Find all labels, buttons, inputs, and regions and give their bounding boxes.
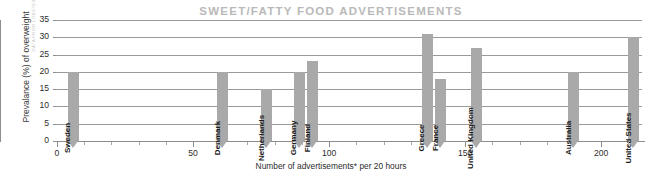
plot-area: SwedenDenmarkNetherlandsGermanyFinlandGr… — [57, 20, 642, 141]
x-tick-minor — [628, 142, 629, 145]
y-tick-label: 35 — [9, 14, 49, 24]
x-tick-label: 50 — [173, 148, 213, 158]
x-tick-minor — [574, 142, 575, 145]
y-tick-label: 10 — [9, 100, 49, 110]
x-tick-label: 0 — [37, 148, 77, 158]
x-tick-minor — [411, 142, 412, 145]
gridline — [57, 20, 642, 21]
x-tick-minor — [520, 142, 521, 145]
gridline — [57, 72, 642, 73]
x-tick-minor — [302, 142, 303, 145]
x-tick-minor — [84, 142, 85, 145]
y-tick-label: 20 — [9, 66, 49, 76]
chart-figure: DATA FROM LOBSTEIN AND DIBB, 2005 SWEET/… — [0, 0, 662, 177]
y-tick-label: 15 — [9, 83, 49, 93]
bar: Finland — [307, 61, 318, 141]
x-tick-minor — [438, 142, 439, 145]
bar: Denmark — [217, 72, 228, 141]
x-tick-minor — [220, 142, 221, 145]
x-tick-major — [57, 142, 58, 147]
bar: France — [435, 79, 446, 141]
x-tick-minor — [247, 142, 248, 145]
x-tick-major — [601, 142, 602, 147]
x-axis-ticks: 050100150200 — [57, 142, 642, 162]
gridline — [57, 37, 642, 38]
x-tick-minor — [166, 142, 167, 145]
x-tick-major — [465, 142, 466, 147]
x-tick-major — [193, 142, 194, 147]
bar: Netherlands — [261, 89, 272, 141]
x-tick-minor — [547, 142, 548, 145]
x-tick-major — [329, 142, 330, 147]
gridline — [57, 55, 642, 56]
gridline — [57, 124, 642, 125]
y-axis-line — [0, 20, 1, 142]
y-tick-label: 0 — [9, 135, 49, 145]
y-tick-label: 25 — [9, 49, 49, 59]
x-tick-minor — [492, 142, 493, 145]
x-tick-label: 150 — [445, 148, 485, 158]
bar: Sweden — [68, 72, 79, 141]
bar: Australia — [568, 72, 579, 141]
x-tick-minor — [111, 142, 112, 145]
y-tick-label: 5 — [9, 118, 49, 128]
x-tick-minor — [275, 142, 276, 145]
x-tick-minor — [384, 142, 385, 145]
bar: United Kingdom — [471, 48, 482, 141]
x-tick-minor — [356, 142, 357, 145]
x-tick-label: 200 — [581, 148, 621, 158]
gridline — [57, 106, 642, 107]
y-tick-label: 30 — [9, 31, 49, 41]
x-tick-label: 100 — [309, 148, 349, 158]
gridline — [57, 89, 642, 90]
bar: United States — [628, 37, 639, 141]
chart-title: SWEET/FATTY FOOD ADVERTISEMENTS — [0, 5, 662, 17]
x-axis-title: Number of advertisements* per 20 hours — [0, 161, 662, 171]
x-tick-minor — [139, 142, 140, 145]
